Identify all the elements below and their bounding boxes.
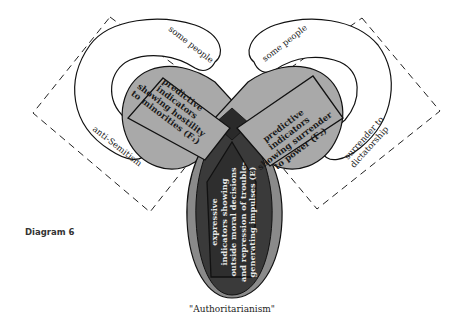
svg-text:expressive: expressive <box>209 198 219 246</box>
authoritarianism-label: "Authoritarianism" <box>189 304 275 314</box>
svg-text:generating impulses (E): generating impulses (E) <box>247 166 257 277</box>
svg-text:and repression of trouble-: and repression of trouble- <box>238 162 248 282</box>
svg-text:indicators showing: indicators showing <box>219 178 229 265</box>
svg-text:outside moral decisions: outside moral decisions <box>228 167 238 277</box>
diagram-canvas: some people anti-Semitism predictive ind… <box>0 0 464 319</box>
diagram-caption: Diagram 6 <box>25 227 75 237</box>
